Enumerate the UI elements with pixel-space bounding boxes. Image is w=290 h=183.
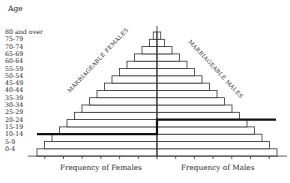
x-label-males: Frequency of Males (181, 163, 254, 172)
bar-female (120, 69, 158, 76)
bar-female (142, 47, 157, 54)
bar-female (135, 54, 158, 61)
bar-male (157, 69, 195, 76)
bar-female (82, 105, 157, 112)
bar-female (75, 112, 158, 119)
bar-male (157, 39, 165, 46)
bar-female (90, 98, 158, 105)
bar-male (157, 98, 225, 105)
bar-male (157, 54, 180, 61)
bar-female (97, 90, 157, 97)
bar-male (157, 83, 210, 90)
bar-male (157, 61, 187, 68)
bar-female (150, 39, 158, 46)
bar-male (157, 127, 255, 134)
bar-male (157, 47, 172, 54)
bar-female (67, 120, 157, 127)
bar-female (105, 83, 158, 90)
bar-male (157, 90, 217, 97)
x-label-females: Frequency of Females (60, 163, 142, 172)
population-pyramid-chart: MARRIAGEABLE FEMALESMARRIAGEABLE MALES (0, 0, 290, 183)
bar-male (157, 105, 232, 112)
bar-male (157, 32, 161, 39)
bar-female (112, 76, 157, 83)
bar-male (157, 76, 202, 83)
bar-male (157, 149, 277, 156)
bar-male (157, 134, 262, 141)
bar-female (37, 149, 157, 156)
bar-female (45, 142, 158, 149)
bar-male (157, 142, 270, 149)
bar-female (153, 32, 157, 39)
bar-female (127, 61, 157, 68)
